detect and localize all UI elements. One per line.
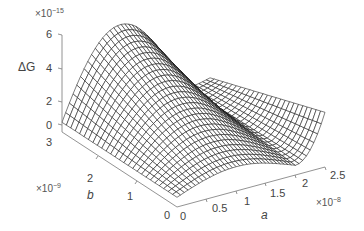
z-tick-2: 2 [46, 95, 52, 107]
z-axis-label: ΔG [18, 60, 35, 74]
a-tick-0: 0 [180, 210, 186, 222]
b-tick-2: 2 [87, 172, 93, 184]
a-tick-1: 1 [244, 195, 250, 207]
b-axis-label: b [87, 188, 94, 202]
b-tick-0: 0 [164, 209, 170, 221]
b-tick-3: 3 [46, 136, 52, 148]
a-exponent: ×10−8 [316, 196, 341, 208]
surface-mesh [62, 24, 325, 197]
surface-plot: 6 4 2 0 ΔG ×10−15 3 2 1 0 b ×10−9 0 0.5 … [0, 0, 364, 231]
z-exponent: ×10−15 [35, 7, 64, 19]
z-tick-6: 6 [46, 28, 52, 40]
a-tick-2.5: 2.5 [330, 169, 345, 181]
z-tick-0: 0 [46, 119, 52, 131]
b-exponent: ×10−9 [36, 182, 61, 194]
a-axis-label: a [261, 208, 268, 222]
z-tick-4: 4 [46, 62, 52, 74]
a-tick-0.5: 0.5 [212, 202, 227, 214]
z-axis: 6 4 2 0 ΔG ×10−15 [18, 7, 64, 132]
a-tick-1.5: 1.5 [270, 187, 285, 199]
a-tick-2: 2 [302, 177, 308, 189]
b-tick-1: 1 [127, 190, 133, 202]
